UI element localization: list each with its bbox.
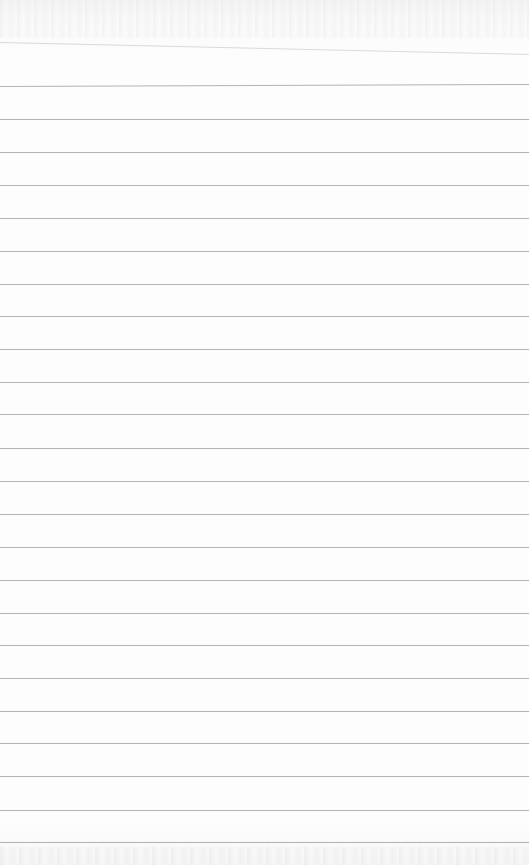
ruled-line	[0, 613, 529, 614]
ruled-line	[0, 349, 529, 350]
top-slanted-rule	[0, 42, 529, 55]
ruled-line	[0, 448, 529, 449]
ruled-line	[0, 810, 529, 811]
ruled-line	[0, 842, 529, 843]
ruled-line	[0, 316, 529, 317]
perforated-top-edge	[0, 0, 529, 38]
bottom-edge	[0, 847, 529, 865]
ruled-line	[0, 119, 529, 120]
ruled-line	[0, 84, 529, 87]
ruled-line	[0, 284, 529, 285]
ruled-line	[0, 251, 529, 252]
ruled-line	[0, 152, 529, 153]
ruled-line	[0, 678, 529, 679]
ruled-line	[0, 645, 529, 646]
ruled-line	[0, 382, 529, 383]
ruled-line	[0, 481, 529, 482]
ruled-line	[0, 743, 529, 744]
notepad-sheet	[0, 0, 529, 865]
ruled-line	[0, 711, 529, 712]
ruled-line	[0, 776, 529, 777]
ruled-line	[0, 580, 529, 581]
ruled-line	[0, 218, 529, 219]
ruled-line	[0, 514, 529, 515]
ruled-line	[0, 547, 529, 548]
ruled-line	[0, 414, 529, 415]
ruled-line	[0, 185, 529, 186]
